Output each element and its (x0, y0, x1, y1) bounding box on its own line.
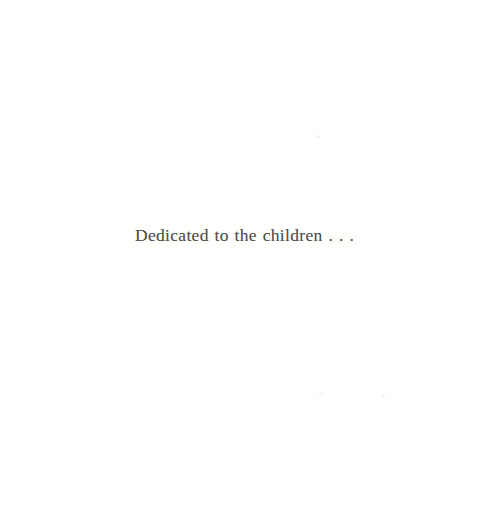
dedication-page: Dedicated to the children . . . (0, 0, 493, 528)
scan-speck (317, 135, 320, 138)
dedication-block: Dedicated to the children . . . (0, 224, 493, 246)
scan-speck (319, 392, 323, 395)
dedication-text: Dedicated to the children . . . (135, 224, 354, 246)
scan-speck (381, 393, 386, 397)
